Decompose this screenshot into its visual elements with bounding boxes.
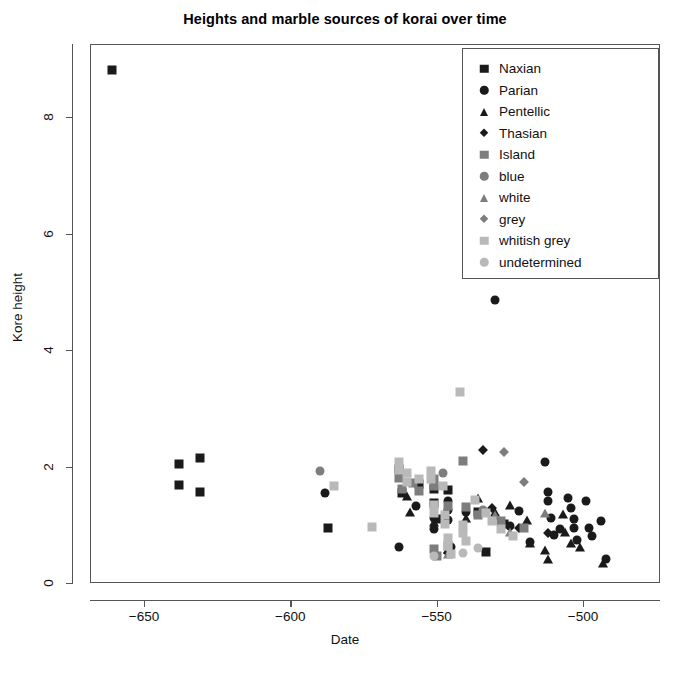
data-point <box>543 554 553 563</box>
data-point <box>482 547 491 556</box>
data-point <box>596 517 605 526</box>
data-point <box>426 475 435 484</box>
legend-label: Island <box>499 148 535 162</box>
data-point <box>456 387 465 396</box>
data-point <box>368 523 377 532</box>
legend-symbol <box>477 255 499 269</box>
chart-title: Heights and marble sources of korai over… <box>0 11 690 27</box>
data-point <box>394 474 403 483</box>
y-axis-line <box>72 44 73 583</box>
data-point <box>195 487 204 496</box>
data-point <box>461 537 470 546</box>
data-point <box>567 504 576 513</box>
y-tick <box>66 117 73 118</box>
data-point <box>403 477 412 486</box>
x-tick-label: −650 <box>129 609 159 624</box>
data-point <box>195 453 204 462</box>
data-point <box>584 523 593 532</box>
legend-label: grey <box>499 213 525 227</box>
legend-symbol <box>477 126 499 140</box>
square-marker-icon <box>480 237 489 246</box>
y-tick-label: 0 <box>41 579 56 587</box>
y-tick-label: 8 <box>41 113 56 121</box>
data-point <box>330 482 339 491</box>
data-point <box>598 559 608 568</box>
chart-container: Heights and marble sources of korai over… <box>0 0 690 676</box>
x-tick-label: −550 <box>421 609 451 624</box>
data-point <box>429 552 438 561</box>
data-point <box>581 497 590 506</box>
data-point <box>441 519 450 528</box>
legend-symbol <box>477 83 499 97</box>
y-tick <box>66 583 73 584</box>
x-tick <box>290 600 291 607</box>
legend-label: undetermined <box>499 256 582 270</box>
data-point <box>405 507 415 516</box>
data-point <box>473 544 482 553</box>
legend-item-grey[interactable]: grey <box>463 209 658 231</box>
data-point <box>543 497 552 506</box>
data-point <box>570 514 579 523</box>
legend-item-parian[interactable]: Parian <box>463 80 658 102</box>
legend-item-thasian[interactable]: Thasian <box>463 123 658 145</box>
legend-symbol <box>477 105 499 119</box>
data-point <box>525 539 535 548</box>
y-tick-label: 6 <box>41 230 56 238</box>
square-marker-icon <box>480 65 489 74</box>
legend-label: Parian <box>499 84 538 98</box>
diamond-marker-icon <box>480 215 489 224</box>
data-point <box>505 500 515 509</box>
legend-label: white <box>499 191 531 205</box>
legend-label: Naxian <box>499 62 541 76</box>
legend-symbol <box>477 62 499 76</box>
data-point <box>543 488 552 497</box>
data-point <box>415 486 424 495</box>
data-point <box>570 523 579 532</box>
data-point <box>107 66 116 75</box>
legend-item-naxian[interactable]: Naxian <box>463 58 658 80</box>
legend-label: Pentellic <box>499 105 550 119</box>
legend-label: Thasian <box>499 127 547 141</box>
legend-item-pentellic[interactable]: Pentellic <box>463 101 658 123</box>
data-point <box>429 509 438 518</box>
legend-symbol <box>477 212 499 226</box>
legend: NaxianParianPentellicThasianIslandbluewh… <box>462 48 659 279</box>
legend-item-undetermined[interactable]: undetermined <box>463 252 658 274</box>
x-axis-line <box>90 600 660 601</box>
data-point <box>575 542 585 551</box>
data-point <box>175 459 184 468</box>
legend-label: whitish grey <box>499 234 570 248</box>
data-point <box>519 477 529 487</box>
triangle-marker-icon <box>480 108 488 116</box>
x-tick-label: −600 <box>275 609 305 624</box>
square-marker-icon <box>480 151 489 160</box>
circle-marker-icon <box>480 258 489 267</box>
circle-marker-icon <box>480 86 489 95</box>
x-tick-label: −500 <box>568 609 598 624</box>
circle-marker-icon <box>480 172 489 181</box>
legend-item-blue[interactable]: blue <box>463 166 658 188</box>
legend-item-island[interactable]: Island <box>463 144 658 166</box>
data-point <box>520 524 529 533</box>
data-point <box>558 510 568 519</box>
legend-symbol <box>477 169 499 183</box>
data-point <box>540 509 550 518</box>
legend-symbol <box>477 234 499 248</box>
data-point <box>587 532 596 541</box>
y-axis-label: Kore height <box>10 228 25 388</box>
legend-item-white[interactable]: white <box>463 187 658 209</box>
data-point <box>508 532 517 541</box>
data-point <box>488 517 497 526</box>
data-point <box>461 503 470 512</box>
data-point <box>491 296 500 305</box>
data-point <box>459 548 468 557</box>
legend-item-whitish-grey[interactable]: whitish grey <box>463 230 658 252</box>
data-point <box>438 482 447 491</box>
legend-symbol <box>477 191 499 205</box>
data-point <box>499 447 509 457</box>
data-point <box>324 523 333 532</box>
data-point <box>470 496 479 505</box>
y-tick-label: 2 <box>41 463 56 471</box>
data-point <box>438 469 447 478</box>
y-tick-label: 4 <box>41 346 56 354</box>
